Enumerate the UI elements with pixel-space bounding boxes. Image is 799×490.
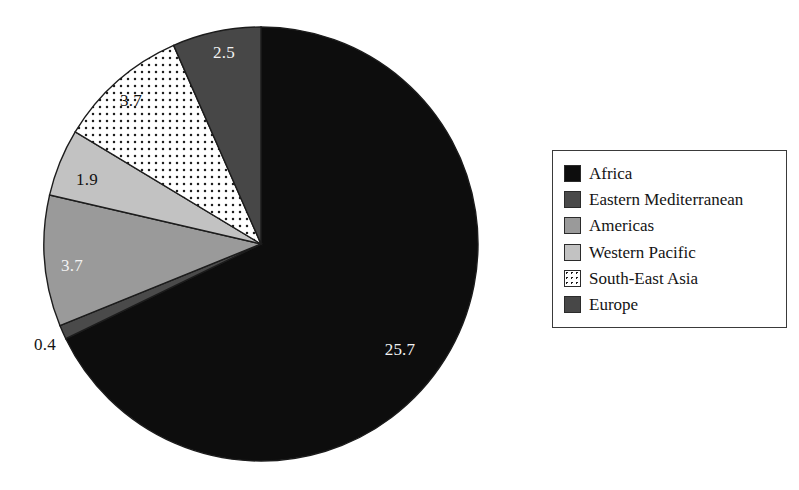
legend-swatch-icon bbox=[564, 217, 581, 234]
legend-item-americas[interactable]: Americas bbox=[564, 213, 776, 239]
legend-swatch-icon bbox=[564, 270, 581, 287]
legend-item-label: Americas bbox=[589, 217, 654, 234]
pie-chart-figure: 25.70.43.71.93.72.5 AfricaEastern Medite… bbox=[0, 0, 799, 490]
legend-item-africa[interactable]: Africa bbox=[564, 160, 776, 186]
legend-swatch-icon bbox=[564, 296, 581, 313]
legend-item-label: Western Pacific bbox=[589, 244, 696, 261]
legend-item-label: Europe bbox=[589, 296, 638, 313]
legend-item-label: Eastern Mediterranean bbox=[589, 191, 743, 208]
legend-swatch-icon bbox=[564, 165, 581, 182]
legend-item-europe[interactable]: Europe bbox=[564, 292, 776, 318]
chart-legend: AfricaEastern MediterraneanAmericasWeste… bbox=[552, 150, 787, 328]
pie-slices-group bbox=[44, 27, 478, 461]
legend-swatch-icon bbox=[564, 191, 581, 208]
legend-item-label: South-East Asia bbox=[589, 270, 698, 287]
legend-item-label: Africa bbox=[589, 165, 632, 182]
legend-item-eastern-mediterranean[interactable]: Eastern Mediterranean bbox=[564, 186, 776, 212]
legend-item-western-pacific[interactable]: Western Pacific bbox=[564, 239, 776, 265]
legend-list: AfricaEastern MediterraneanAmericasWeste… bbox=[564, 160, 776, 318]
legend-swatch-icon bbox=[564, 244, 581, 261]
legend-item-south-east-asia[interactable]: South-East Asia bbox=[564, 266, 776, 292]
